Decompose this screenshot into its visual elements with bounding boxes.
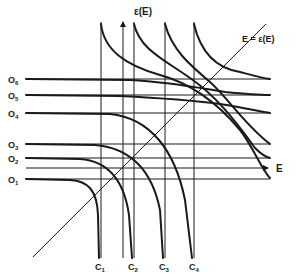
open-channel-labels: O6 O5 O4 O3 O2 O1 <box>8 75 19 186</box>
label-o1: O1 <box>8 175 19 186</box>
epsilon-axis-label: ε(E) <box>134 6 152 17</box>
label-o2: O2 <box>8 154 19 165</box>
branch-below-c1 <box>26 179 99 258</box>
label-o5: O5 <box>8 91 19 102</box>
branch-c4-o6 <box>194 24 270 79</box>
branch-curves <box>26 24 270 258</box>
label-c3: C3 <box>159 262 170 273</box>
diagram-svg: ε(E) E E = ε(E) O6 O5 O4 O3 O2 O1 C1 C2 … <box>0 0 302 278</box>
diagonal-line <box>33 24 266 257</box>
branch-o2-c2 <box>26 158 132 258</box>
branch-o6-o5 <box>26 79 270 95</box>
label-o3: O3 <box>8 140 19 151</box>
label-o4: O4 <box>8 109 19 120</box>
branch-o5-o4 <box>26 95 270 113</box>
closed-channel-labels: C1 C2 C3 C4 <box>95 262 200 273</box>
label-c1: C1 <box>95 262 106 273</box>
diagonal-label: E = ε(E) <box>242 34 275 44</box>
vertical-asymptotes <box>101 22 194 258</box>
label-c4: C4 <box>189 262 200 273</box>
e-axis-label: E <box>276 163 283 174</box>
diagram-canvas: ε(E) E E = ε(E) O6 O5 O4 O3 O2 O1 C1 C2 … <box>0 0 302 278</box>
label-c2: C2 <box>128 262 139 273</box>
branch-o4-c4 <box>26 113 192 258</box>
label-o6: O6 <box>8 75 19 86</box>
